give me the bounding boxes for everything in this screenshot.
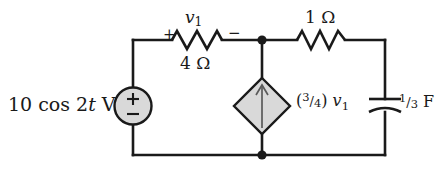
resistor-4-ohm-minus-polarity: − (228, 26, 241, 41)
voltage-source-label: 10 cos 2t V (8, 95, 116, 114)
resistor-4-ohm-label: 4 Ω (180, 55, 210, 72)
node-bottom-center (257, 150, 266, 159)
resistor-4-ohm-symbol (172, 31, 222, 49)
resistor-4-ohm-voltage-label: v1 (185, 9, 202, 29)
dependent-source-label: (3/4) v1 (296, 92, 349, 112)
capacitor-label: 1/3 F (399, 93, 434, 111)
resistor-1-ohm-label: 1 Ω (305, 9, 335, 26)
resistor-1-ohm-symbol (297, 31, 345, 49)
node-top-center (257, 35, 266, 44)
resistor-4-ohm-plus-polarity: + (163, 27, 176, 42)
circuit-diagram-figure: 10 cos 2t V v1 + − 4 Ω 1 Ω (3/4) v1 1/3 … (0, 0, 443, 173)
circuit-schematic-svg (0, 0, 443, 173)
